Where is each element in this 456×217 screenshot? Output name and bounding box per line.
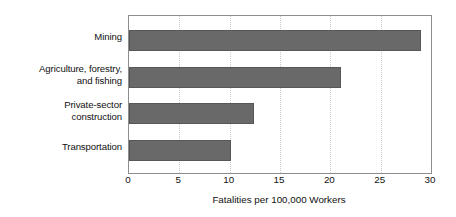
x-axis-title: Fatalities per 100,000 Workers [128,194,430,206]
bar [129,67,341,88]
category-label-line: Private-sector [0,99,122,111]
category-label-line: Transportation [0,141,122,153]
category-label-line: Mining [0,31,122,43]
x-tick-label: 10 [223,174,234,186]
category-label-private-sector-construction: Private-sector construction [0,99,122,122]
x-tick-label: 20 [324,174,335,186]
bar [129,140,231,161]
category-axis: Mining Agriculture, forestry, and fishin… [0,15,122,172]
x-tick-label: 25 [374,174,385,186]
category-label-line: and fishing [0,75,122,87]
category-label-line: Agriculture, forestry, [0,63,122,75]
x-tick-label: 30 [425,174,436,186]
x-tick-label: 5 [176,174,181,186]
category-label-agriculture-forestry-fishing: Agriculture, forestry, and fishing [0,63,122,86]
bar-chart-figure: Mining Agriculture, forestry, and fishin… [0,0,456,217]
value-axis: 051015202530 [128,174,430,190]
category-label-mining: Mining [0,31,122,43]
bars-layer [129,16,431,173]
x-tick-label: 15 [274,174,285,186]
plot-area [128,15,432,174]
category-label-transportation: Transportation [0,141,122,153]
category-label-line: construction [0,111,122,123]
bar [129,103,254,124]
x-tick-label: 0 [125,174,130,186]
bar [129,30,421,51]
